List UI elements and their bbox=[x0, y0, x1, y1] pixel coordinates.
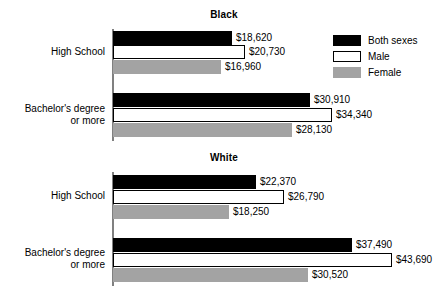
legend-label-female: Female bbox=[368, 67, 401, 78]
bar-white-bachelors-both-sexes bbox=[113, 238, 352, 252]
bar-black-high-school-both-sexes bbox=[113, 31, 232, 45]
bar-value-white-high-school-female: $18,250 bbox=[233, 205, 269, 219]
bar-value-black-high-school-both-sexes: $18,620 bbox=[236, 31, 272, 45]
category-label-high-school-white: High School bbox=[51, 190, 105, 202]
bar-value-black-high-school-male: $20,730 bbox=[249, 45, 285, 59]
legend-swatch-both-sexes-icon bbox=[333, 35, 361, 46]
bar-black-bachelors-male bbox=[113, 108, 332, 122]
category-label-high-school-black: High School bbox=[51, 46, 105, 58]
legend-item-male: Male bbox=[333, 49, 417, 63]
panel-title-white: White bbox=[113, 152, 335, 163]
chart-legend: Both sexes Male Female bbox=[333, 33, 417, 81]
bar-value-black-bachelors-both-sexes: $30,910 bbox=[314, 93, 350, 107]
bar-white-bachelors-female bbox=[113, 268, 308, 282]
grouped-bar-chart: Black High School Bachelor's degree or m… bbox=[0, 0, 445, 304]
bar-value-white-bachelors-both-sexes: $37,490 bbox=[356, 238, 392, 252]
bar-white-high-school-both-sexes bbox=[113, 175, 256, 189]
legend-label-both-sexes: Both sexes bbox=[368, 35, 417, 46]
category-label-bachelors-black: Bachelor's degree or more bbox=[25, 103, 105, 127]
bar-value-black-bachelors-male: $34,340 bbox=[336, 108, 372, 122]
bar-value-black-high-school-female: $16,960 bbox=[225, 60, 261, 74]
bar-white-high-school-female bbox=[113, 205, 229, 219]
bar-value-white-bachelors-male: $43,690 bbox=[396, 253, 432, 267]
panel-title-black: Black bbox=[113, 9, 335, 20]
bar-black-bachelors-female bbox=[113, 123, 292, 137]
bar-black-bachelors-both-sexes bbox=[113, 93, 310, 107]
legend-swatch-male-icon bbox=[333, 51, 361, 62]
legend-swatch-female-icon bbox=[333, 67, 361, 78]
legend-item-female: Female bbox=[333, 65, 417, 79]
bar-white-high-school-male bbox=[113, 190, 284, 204]
bar-value-black-bachelors-female: $28,130 bbox=[296, 123, 332, 137]
bar-white-bachelors-male bbox=[113, 253, 392, 267]
bar-value-white-bachelors-female: $30,520 bbox=[312, 268, 348, 282]
bar-black-high-school-female bbox=[113, 60, 221, 74]
bar-value-white-high-school-both-sexes: $22,370 bbox=[260, 175, 296, 189]
legend-item-both-sexes: Both sexes bbox=[333, 33, 417, 47]
legend-label-male: Male bbox=[368, 51, 390, 62]
bar-value-white-high-school-male: $26,790 bbox=[288, 190, 324, 204]
bar-black-high-school-male bbox=[113, 45, 245, 59]
category-label-bachelors-white: Bachelor's degree or more bbox=[25, 247, 105, 271]
